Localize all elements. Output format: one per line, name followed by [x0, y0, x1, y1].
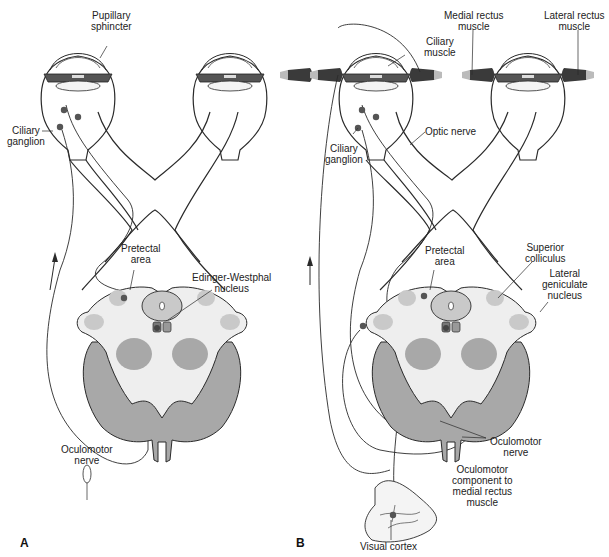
- label-line: Oculomotor: [61, 444, 113, 455]
- label-line: muscle: [444, 21, 503, 32]
- label-line: medial rectus: [452, 486, 513, 497]
- label-optic-nerve: Optic nerve: [425, 126, 476, 137]
- label-ciliary-muscle: Ciliary muscle: [424, 36, 456, 58]
- label-line: nucleus: [192, 283, 271, 294]
- label-superior-colliculus: Superior colliculus: [525, 242, 566, 264]
- label-line: Visual cortex: [360, 541, 417, 552]
- label-line: sphincter: [91, 21, 132, 32]
- label-oculomotor-nerve-b: Oculomotor nerve: [490, 436, 542, 458]
- label-lateral-geniculate: Lateral geniculate nucleus: [542, 268, 588, 301]
- label-line: geniculate: [542, 279, 588, 290]
- label-ciliary-ganglion-a: Ciliary ganglion: [7, 125, 45, 147]
- label-line: nerve: [61, 455, 113, 466]
- label-line: nucleus: [542, 290, 588, 301]
- label-pupillary-sphincter: Pupillary sphincter: [91, 10, 132, 32]
- label-line: Pupillary: [91, 10, 132, 21]
- label-line: Oculomotor: [452, 464, 513, 475]
- label-line: area: [425, 256, 464, 267]
- label-line: Superior: [525, 242, 566, 253]
- label-line: Oculomotor: [490, 436, 542, 447]
- label-line: component to: [452, 475, 513, 486]
- label-medial-rectus: Medial rectus muscle: [444, 10, 503, 32]
- diagram-canvas: [0, 0, 609, 557]
- label-line: ganglion: [325, 154, 363, 165]
- label-oculomotor-component: Oculomotor component to medial rectus mu…: [452, 464, 513, 508]
- label-ciliary-ganglion-b: Ciliary ganglion: [325, 143, 363, 165]
- label-line: Ciliary: [7, 125, 45, 136]
- label-line: Ciliary: [424, 36, 456, 47]
- label-pretectal-area-b: Pretectal area: [425, 245, 464, 267]
- label-oculomotor-nerve-a: Oculomotor nerve: [61, 444, 113, 466]
- label-line: Pretectal: [121, 243, 160, 254]
- label-line: ganglion: [7, 136, 45, 147]
- label-line: muscle: [452, 497, 513, 508]
- label-pretectal-area-a: Pretectal area: [121, 243, 160, 265]
- label-line: area: [121, 254, 160, 265]
- label-lateral-rectus: Lateral rectus muscle: [544, 10, 605, 32]
- label-line: nerve: [490, 447, 542, 458]
- label-line: muscle: [544, 21, 605, 32]
- panel-letter-b: B: [296, 536, 305, 550]
- label-edinger-westphal: Edinger-Westphal nucleus: [192, 272, 271, 294]
- panel-letter-a: A: [20, 536, 29, 550]
- label-line: Medial rectus: [444, 10, 503, 21]
- label-line: muscle: [424, 47, 456, 58]
- label-line: Optic nerve: [425, 126, 476, 137]
- label-line: Pretectal: [425, 245, 464, 256]
- label-visual-cortex: Visual cortex: [360, 541, 417, 552]
- label-line: colliculus: [525, 253, 566, 264]
- label-line: Lateral rectus: [544, 10, 605, 21]
- label-line: Ciliary: [325, 143, 363, 154]
- label-line: Edinger-Westphal: [192, 272, 271, 283]
- label-line: Lateral: [542, 268, 588, 279]
